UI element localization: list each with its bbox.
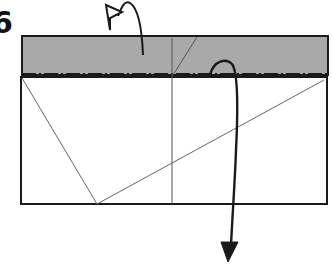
shaded-flap [22, 36, 328, 75]
mountain-fold-arrowhead-icon [106, 5, 122, 30]
paper-body [21, 77, 327, 204]
origami-diagram [0, 0, 332, 265]
pull-down-arrowhead-icon [221, 242, 238, 262]
